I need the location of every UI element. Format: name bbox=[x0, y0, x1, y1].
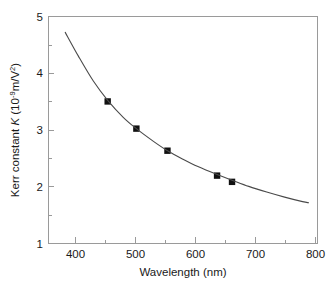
y-tick-label-4: 4 bbox=[37, 67, 44, 79]
y-axis-title-units-open: (10 bbox=[9, 98, 21, 118]
y-axis-title-units-end: ) bbox=[9, 63, 21, 67]
y-tick-label-5: 5 bbox=[37, 11, 43, 23]
x-tick-label-600: 600 bbox=[186, 248, 205, 260]
y-tick-label-3: 3 bbox=[37, 124, 43, 136]
x-tick-label-500: 500 bbox=[126, 248, 145, 260]
x-tick-label-700: 700 bbox=[246, 248, 265, 260]
y-axis-title-prefix: Kerr constant bbox=[9, 126, 21, 198]
x-tick-label-800: 800 bbox=[306, 248, 325, 260]
y-tick-label-2: 2 bbox=[37, 181, 43, 193]
y-axis-title-units-close: m/V bbox=[9, 71, 21, 92]
x-axis-title: Wavelength (nm) bbox=[139, 266, 226, 278]
x-tick-label-400: 400 bbox=[66, 248, 85, 260]
y-axis-title-exponent: -9 bbox=[8, 91, 17, 98]
kerr-constant-chart-figure: 400 500 600 700 800 1 2 3 4 5 Wavelength… bbox=[0, 0, 331, 290]
y-tick-label-1: 1 bbox=[37, 238, 43, 250]
chart-canvas: 400 500 600 700 800 1 2 3 4 5 Wavelength… bbox=[0, 0, 331, 290]
chart-background bbox=[0, 0, 331, 290]
y-axis-title: Kerr constant K (10-9m/V2) bbox=[8, 63, 21, 198]
